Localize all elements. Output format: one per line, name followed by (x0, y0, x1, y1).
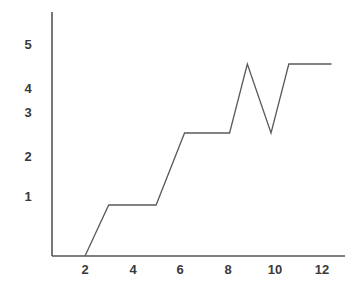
x-tick-label-6: 6 (167, 263, 193, 276)
data-series-group (85, 64, 331, 256)
y-tick-label-5: 5 (18, 38, 38, 51)
axis-lines (52, 12, 345, 256)
y-tick-label-1: 1 (18, 190, 38, 203)
y-tick-label-4: 4 (18, 82, 38, 95)
x-tick-label-12: 12 (309, 263, 335, 276)
y-tick-label-2: 2 (18, 150, 38, 163)
x-tick-label-2: 2 (72, 263, 98, 276)
line-chart: 5 4 3 2 1 2 4 6 8 10 12 (0, 0, 362, 288)
y-tick-label-3: 3 (18, 106, 38, 119)
x-tick-label-4: 4 (120, 263, 146, 276)
x-tick-label-8: 8 (215, 263, 241, 276)
x-tick-label-10: 10 (262, 263, 288, 276)
data-line-series-1 (85, 64, 331, 256)
chart-plot-area (0, 0, 362, 288)
